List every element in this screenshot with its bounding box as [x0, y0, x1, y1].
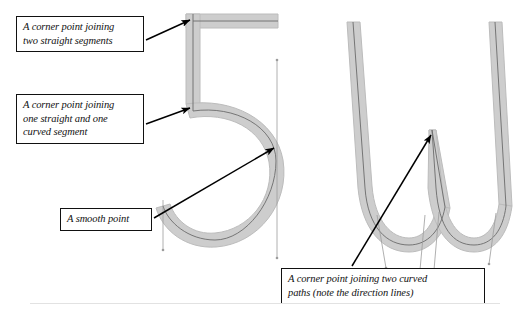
callout-corner-mixed: A corner point joining one straight and …	[16, 94, 144, 144]
glyph-numeral-5	[156, 14, 284, 247]
arrow-corner-straight	[146, 20, 190, 40]
numeral-5-path-line	[163, 14, 276, 240]
handle-dot-5-smooth-top	[276, 59, 279, 62]
callout-corner-curved: A corner point joining two curved paths …	[281, 268, 485, 304]
handle-dot-5-smooth-bottom	[276, 257, 279, 260]
figure-canvas: A corner point joining two straight segm…	[0, 0, 518, 320]
callout-smooth-point: A smooth point	[60, 208, 152, 231]
bottom-divider	[30, 303, 500, 304]
handle-dot-5-lower-left	[162, 249, 165, 252]
numeral-5-bowl-band	[156, 103, 284, 247]
arrow-smooth	[154, 148, 274, 218]
callout-corner-straight: A corner point joining two straight segm…	[16, 16, 144, 52]
arrow-corner-mixed	[146, 108, 190, 124]
handle-dot-w-4	[488, 263, 491, 266]
